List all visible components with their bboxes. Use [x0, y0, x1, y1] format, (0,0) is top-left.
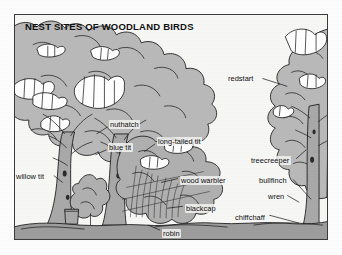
- figure-root: .cn { fill:#b9b9b9; stroke:#1f1f1f; stro…: [0, 0, 342, 255]
- woodland-scene: .cn { fill:#b9b9b9; stroke:#1f1f1f; stro…: [15, 15, 327, 239]
- scene-svg: .cn { fill:#b9b9b9; stroke:#1f1f1f; stro…: [15, 15, 327, 239]
- species-label-treecreeper: treecreeper: [251, 157, 289, 164]
- species-label-wren: wren: [268, 193, 284, 200]
- species-label-redstart: redstart: [228, 75, 253, 82]
- species-label-robin: robin: [163, 230, 180, 237]
- stump-group: [65, 209, 79, 224]
- species-label-blue-tit: blue tit: [109, 144, 131, 151]
- illustration-frame: .cn { fill:#b9b9b9; stroke:#1f1f1f; stro…: [14, 14, 328, 240]
- page-title: NEST SITES OF WOODLAND BIRDS: [25, 21, 194, 32]
- species-label-long-tailed-tit: long-tailed tit: [158, 138, 201, 145]
- species-label-blackcap: blackcap: [186, 205, 216, 212]
- species-label-chiffchaff: chiffchaff: [235, 214, 265, 221]
- species-label-nuthatch: nuthatch: [110, 121, 139, 128]
- species-label-wood-warbler: wood warbler: [181, 177, 226, 184]
- species-label-willow-tit: willow tit: [16, 173, 44, 180]
- species-label-bullfinch: bullfinch: [259, 177, 287, 184]
